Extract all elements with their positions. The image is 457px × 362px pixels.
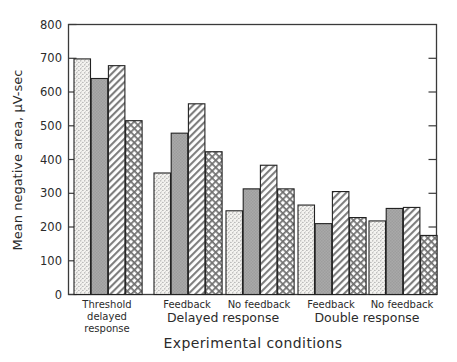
y-tick-700: 700 xyxy=(40,51,62,65)
group-label-3: Feedback xyxy=(307,299,355,310)
group-label-4: No feedback xyxy=(371,299,434,310)
bar xyxy=(386,208,403,294)
bar xyxy=(243,189,260,295)
bar xyxy=(171,133,188,294)
bar-chart: 800 700 600 500 400 300 200 100 0 Mean n… xyxy=(0,0,457,362)
bar xyxy=(369,221,386,295)
bar xyxy=(108,66,125,295)
y-axis-tick-labels: 800 700 600 500 400 300 200 100 0 xyxy=(40,18,62,302)
group-label-1: Feedback xyxy=(163,299,211,310)
y-tick-100: 100 xyxy=(40,254,62,268)
x-axis-group-labels: Threshold delayed response Feedback No f… xyxy=(81,299,433,334)
y-tick-0: 0 xyxy=(55,288,62,302)
group-label-0-line2: delayed xyxy=(87,311,127,322)
y-tick-400: 400 xyxy=(40,153,62,167)
bar xyxy=(403,207,420,294)
y-tick-500: 500 xyxy=(40,119,62,133)
y-tick-300: 300 xyxy=(40,186,62,200)
bar xyxy=(206,152,223,295)
bar xyxy=(260,165,277,294)
bar xyxy=(126,121,143,295)
bar xyxy=(350,218,367,295)
group-label-0-line1: Threshold xyxy=(81,299,131,310)
bar xyxy=(278,189,295,295)
bar xyxy=(298,205,315,294)
chart-canvas: 800 700 600 500 400 300 200 100 0 Mean n… xyxy=(0,0,457,362)
y-tick-800: 800 xyxy=(40,18,62,32)
bar xyxy=(91,79,108,295)
y-axis-title: Mean negative area, μV-sec xyxy=(10,70,25,251)
group-major-label-delayed: Delayed response xyxy=(167,310,280,325)
y-tick-600: 600 xyxy=(40,85,62,99)
bar xyxy=(315,224,332,295)
bar xyxy=(188,104,205,295)
group-major-label-double: Double response xyxy=(314,310,419,325)
bars-layer xyxy=(74,59,437,295)
group-label-2: No feedback xyxy=(228,299,291,310)
bar xyxy=(74,59,91,295)
x-axis-title: Experimental conditions xyxy=(163,335,342,351)
bar xyxy=(332,192,349,295)
bar xyxy=(421,235,438,294)
bar xyxy=(226,211,243,295)
y-tick-200: 200 xyxy=(40,220,62,234)
bar xyxy=(154,173,171,295)
group-label-0-line3: response xyxy=(84,323,129,334)
